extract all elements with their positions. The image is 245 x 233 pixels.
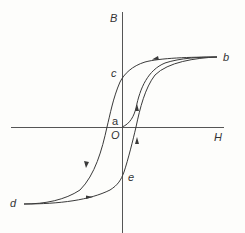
ascending-branch xyxy=(24,57,217,204)
arrow-top-left xyxy=(152,56,159,60)
origin-label: O xyxy=(111,130,120,141)
arrow-ascending-up xyxy=(135,137,139,144)
descending-branch xyxy=(24,57,217,204)
h-axis-label: H xyxy=(214,132,222,143)
point-b-label: b xyxy=(223,52,229,63)
diagram-svg xyxy=(0,0,245,233)
hysteresis-diagram: B H O a b c d e xyxy=(0,0,245,233)
point-d-label: d xyxy=(10,198,16,209)
b-axis-label: B xyxy=(110,13,117,24)
point-c-label: c xyxy=(111,68,117,79)
point-a-label: a xyxy=(112,116,118,127)
arrow-descending-down xyxy=(84,161,89,168)
initial-magnetization-curve xyxy=(122,57,217,127)
point-e-label: e xyxy=(128,172,134,183)
arrow-bottom-right xyxy=(86,196,93,200)
